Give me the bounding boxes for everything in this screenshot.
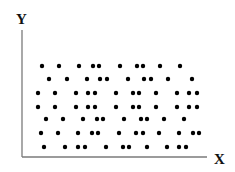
data-point [158, 64, 162, 68]
data-point [122, 117, 126, 121]
data-point [44, 117, 48, 121]
data-point [178, 64, 182, 68]
data-point [95, 117, 99, 121]
data-point [142, 77, 146, 81]
data-point [42, 145, 46, 149]
data-point [134, 131, 138, 135]
data-point [190, 77, 194, 81]
data-point [39, 131, 43, 135]
data-point [162, 117, 166, 121]
data-point [97, 64, 101, 68]
x-axis-label: X [214, 152, 225, 167]
data-point [76, 131, 80, 135]
scatter-plot [0, 0, 235, 172]
data-point [56, 131, 60, 135]
data-point [53, 105, 57, 109]
data-point [191, 131, 195, 135]
data-point [139, 117, 143, 121]
data-point [83, 145, 87, 149]
data-point [104, 145, 108, 149]
data-point [81, 117, 85, 121]
data-point [121, 145, 125, 149]
data-point [141, 64, 145, 68]
data-point [98, 77, 102, 81]
data-point [175, 105, 179, 109]
data-point [166, 77, 170, 81]
data-point [117, 131, 121, 135]
data-point [91, 64, 95, 68]
data-point [141, 131, 145, 135]
data-point [40, 64, 44, 68]
data-point [182, 117, 186, 121]
data-point [145, 145, 149, 149]
data-point [137, 91, 141, 95]
data-point [86, 105, 90, 109]
data-point [127, 145, 131, 149]
data-points [36, 64, 201, 149]
data-point [114, 105, 118, 109]
data-point [154, 91, 158, 95]
data-point [96, 131, 100, 135]
data-point [197, 131, 201, 135]
data-point [85, 77, 89, 81]
data-point [76, 145, 80, 149]
data-point [187, 91, 191, 95]
data-point [195, 91, 199, 95]
data-point [137, 105, 141, 109]
data-point [93, 91, 97, 95]
data-point [74, 105, 78, 109]
data-point [177, 145, 181, 149]
data-point [101, 117, 105, 121]
data-point [165, 145, 169, 149]
data-point [126, 77, 130, 81]
data-point [57, 64, 61, 68]
data-point [177, 131, 181, 135]
data-point [154, 105, 158, 109]
data-point [90, 131, 94, 135]
data-point [195, 105, 199, 109]
data-point [36, 105, 40, 109]
data-point [131, 105, 135, 109]
data-point [93, 105, 97, 109]
data-point [65, 77, 69, 81]
data-point [175, 91, 179, 95]
data-point [149, 77, 153, 81]
data-point [61, 117, 65, 121]
data-point [105, 77, 109, 81]
data-point [118, 64, 122, 68]
data-point [145, 117, 149, 121]
data-point [187, 105, 191, 109]
data-point [74, 91, 78, 95]
data-point [77, 64, 81, 68]
data-point [47, 77, 51, 81]
data-point [135, 64, 139, 68]
data-point [114, 91, 118, 95]
data-point [131, 91, 135, 95]
data-point [184, 145, 188, 149]
data-point [53, 91, 57, 95]
y-axis-label: Y [16, 12, 27, 27]
data-point [86, 91, 90, 95]
data-point [36, 91, 40, 95]
data-point [63, 145, 67, 149]
data-point [157, 131, 161, 135]
